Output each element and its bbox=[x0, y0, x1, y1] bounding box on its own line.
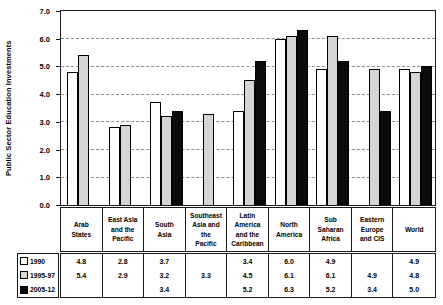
data-table: 4.82.83.73.46.04.94.95.42.93.23.34.56.16… bbox=[60, 253, 436, 298]
category-cell: South Asia bbox=[144, 208, 186, 251]
legend-item: 1995-97 bbox=[18, 268, 58, 282]
value-cell: 6.1 bbox=[269, 268, 311, 282]
bar-1995-97 bbox=[410, 72, 421, 205]
bar-1990 bbox=[275, 39, 286, 205]
value-cell: 3.3 bbox=[186, 268, 228, 282]
plot-area bbox=[60, 10, 436, 206]
y-axis-title: Public Sector Education Investments bbox=[2, 10, 15, 207]
legend: 19901995-972005-12 bbox=[17, 253, 59, 298]
category-cell: Latin America and the Caribbean bbox=[227, 208, 269, 251]
legend-swatch bbox=[20, 271, 28, 279]
y-axis-tick-label: 7.0 bbox=[22, 7, 50, 16]
bar-1995-97 bbox=[286, 36, 297, 205]
category-cell: World bbox=[393, 208, 435, 251]
legend-label: 1990 bbox=[30, 258, 45, 265]
gridline bbox=[61, 38, 435, 39]
legend-item: 1990 bbox=[18, 254, 58, 268]
value-cell: 3.7 bbox=[144, 254, 186, 268]
category-cell: Sub Saharan Africa bbox=[310, 208, 352, 251]
category-cell: North America bbox=[269, 208, 311, 251]
value-cell: 6.3 bbox=[269, 283, 311, 297]
bar-2005-12 bbox=[338, 61, 349, 205]
bar-1995-97 bbox=[120, 125, 131, 205]
value-cell bbox=[186, 283, 228, 297]
bar-1995-97 bbox=[161, 116, 172, 205]
legend-label: 1995-97 bbox=[30, 272, 55, 279]
value-cell: 3.4 bbox=[227, 254, 269, 268]
y-axis-tick-label: 2.0 bbox=[22, 146, 50, 155]
bar-1990 bbox=[399, 69, 410, 205]
bar-1995-97 bbox=[327, 36, 338, 205]
value-cell: 4.8 bbox=[393, 268, 435, 282]
bar-2005-12 bbox=[172, 111, 183, 205]
legend-label: 2005-12 bbox=[30, 286, 55, 293]
value-cell: 5.0 bbox=[393, 283, 435, 297]
y-axis-tick-label: 6.0 bbox=[22, 35, 50, 44]
gridline bbox=[61, 66, 435, 67]
value-cell bbox=[186, 254, 228, 268]
value-cell: 3.4 bbox=[352, 283, 394, 297]
bar-2005-12 bbox=[297, 30, 308, 205]
value-cell: 4.9 bbox=[393, 254, 435, 268]
y-axis-tick-label: 5.0 bbox=[22, 62, 50, 71]
category-cell: Eastern Europe and CIS bbox=[352, 208, 394, 251]
y-axis-tick-label: 0.0 bbox=[22, 201, 50, 210]
value-cell: 2.9 bbox=[103, 268, 145, 282]
value-cell: 4.5 bbox=[227, 268, 269, 282]
value-cell: 5.2 bbox=[227, 283, 269, 297]
value-cell: 3.2 bbox=[144, 268, 186, 282]
bar-1990 bbox=[316, 69, 327, 205]
value-cell: 3.4 bbox=[144, 283, 186, 297]
bar-1990 bbox=[109, 127, 120, 205]
value-cell: 2.8 bbox=[103, 254, 145, 268]
value-cell: 5.4 bbox=[61, 268, 103, 282]
y-axis-tick-label: 3.0 bbox=[22, 118, 50, 127]
bar-2005-12 bbox=[380, 111, 391, 205]
value-cell: 6.1 bbox=[310, 268, 352, 282]
value-cell: 5.2 bbox=[310, 283, 352, 297]
y-axis-tick-label: 4.0 bbox=[22, 90, 50, 99]
bar-1995-97 bbox=[78, 55, 89, 205]
legend-swatch bbox=[20, 286, 28, 294]
category-cell: Southeast Asia and the Pacific bbox=[186, 208, 228, 251]
category-cell: Arab States bbox=[61, 208, 103, 251]
value-cell: 4.8 bbox=[61, 254, 103, 268]
education-investments-chart: Public Sector Education Investments 7.06… bbox=[0, 0, 443, 305]
bar-1990 bbox=[233, 111, 244, 205]
legend-swatch bbox=[20, 257, 28, 265]
value-cell: 4.9 bbox=[310, 254, 352, 268]
bar-2005-12 bbox=[255, 61, 266, 205]
value-cell: 6.0 bbox=[269, 254, 311, 268]
bar-1995-97 bbox=[203, 114, 214, 205]
category-cell: East Asia and the Pacific bbox=[103, 208, 145, 251]
category-header-row: Arab StatesEast Asia and the PacificSout… bbox=[60, 207, 436, 252]
value-cell bbox=[352, 254, 394, 268]
bar-1995-97 bbox=[244, 80, 255, 205]
legend-item: 2005-12 bbox=[18, 283, 58, 297]
value-cell bbox=[103, 283, 145, 297]
bar-1990 bbox=[150, 102, 161, 205]
bar-2005-12 bbox=[421, 66, 432, 205]
bar-1995-97 bbox=[369, 69, 380, 205]
value-cell: 4.9 bbox=[352, 268, 394, 282]
value-cell bbox=[61, 283, 103, 297]
y-axis-tick-label: 1.0 bbox=[22, 173, 50, 182]
bar-1990 bbox=[67, 72, 78, 205]
